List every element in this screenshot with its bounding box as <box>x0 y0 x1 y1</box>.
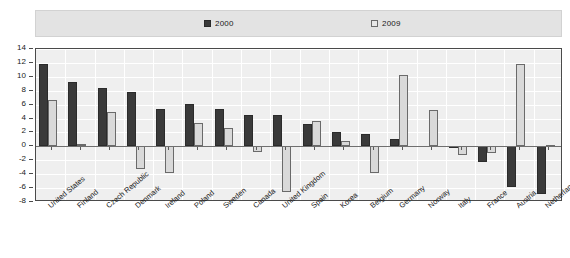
bar-group <box>95 49 124 200</box>
bar-2000 <box>244 115 253 146</box>
bar-2000 <box>127 92 136 146</box>
bar-2000 <box>39 64 48 147</box>
bar-2000 <box>273 115 282 146</box>
x-axis-labels: United StatesFinlandCzech RepublicDenmar… <box>35 201 562 258</box>
y-tick-label: 10 <box>17 72 26 80</box>
bar-group <box>300 49 329 200</box>
bar-group <box>270 49 299 200</box>
legend-label-2009: 2009 <box>382 20 401 28</box>
bar-group <box>36 49 65 200</box>
bar-2009 <box>312 121 321 146</box>
bar-2009 <box>370 146 379 173</box>
bar-2009 <box>48 100 57 146</box>
bar-group <box>241 49 270 200</box>
y-tick-mark <box>29 173 33 174</box>
y-tick-label: 4 <box>22 114 26 122</box>
legend-entry-2000: 2000 <box>204 20 234 28</box>
zero-axis-line <box>36 146 561 147</box>
bar-group <box>182 49 211 200</box>
y-tick-mark <box>29 201 33 202</box>
y-tick-mark <box>29 145 33 146</box>
y-tick-mark <box>29 90 33 91</box>
bar-group <box>387 49 416 200</box>
bar-2009 <box>136 146 145 169</box>
bar-2000 <box>303 124 312 146</box>
bar-group <box>124 49 153 200</box>
bar-2000 <box>361 134 370 147</box>
bar-2000 <box>390 139 399 146</box>
bar-2000 <box>507 146 516 186</box>
bar-group <box>329 49 358 200</box>
bar-chart: 2000 2009 14121086420-2-4-6-8 United Sta… <box>0 0 570 258</box>
y-tick-label: -4 <box>19 169 26 177</box>
bar-group <box>153 49 182 200</box>
bar-2000 <box>156 109 165 147</box>
bar-2000 <box>537 146 546 193</box>
y-tick-label: 6 <box>22 100 26 108</box>
bar-group <box>534 49 562 200</box>
bar-group <box>358 49 387 200</box>
legend-swatch-icon-2009 <box>371 20 378 27</box>
y-tick-label: -2 <box>19 155 26 163</box>
y-tick-label: 0 <box>22 141 26 149</box>
y-tick-mark <box>29 118 33 119</box>
legend-swatch-icon-2000 <box>204 20 211 27</box>
bar-2000 <box>98 88 107 146</box>
bar-2009 <box>399 75 408 146</box>
y-tick-mark <box>29 131 33 132</box>
y-tick-mark <box>29 62 33 63</box>
legend-entry-2009: 2009 <box>371 20 401 28</box>
chart-legend: 2000 2009 <box>35 10 562 37</box>
bar-2009 <box>165 146 174 172</box>
y-tick-label: -6 <box>19 183 26 191</box>
bar-2000 <box>332 132 341 147</box>
bar-2009 <box>429 110 438 146</box>
bar-group <box>446 49 475 200</box>
bar-2000 <box>185 104 194 146</box>
bars-layer <box>36 49 561 200</box>
bar-group <box>212 49 241 200</box>
y-tick-label: 14 <box>17 44 26 52</box>
bar-2000 <box>68 82 77 147</box>
y-tick-mark <box>29 187 33 188</box>
y-axis: 14121086420-2-4-6-8 <box>0 48 33 201</box>
bar-2000 <box>478 146 487 162</box>
y-tick-mark <box>29 159 33 160</box>
bar-2009 <box>224 128 233 146</box>
y-tick-mark <box>29 104 33 105</box>
bar-2000 <box>215 109 224 147</box>
bar-2009 <box>458 146 467 155</box>
bar-2009 <box>282 146 291 191</box>
y-tick-label: 2 <box>22 127 26 135</box>
y-tick-mark <box>29 76 33 77</box>
bar-2009 <box>516 64 525 146</box>
bar-group <box>417 49 446 200</box>
y-tick-label: 12 <box>17 58 26 66</box>
bar-2009 <box>487 146 496 153</box>
legend-label-2000: 2000 <box>215 20 234 28</box>
plot-area <box>35 48 562 201</box>
bar-2009 <box>107 112 116 146</box>
bar-group <box>504 49 533 200</box>
y-tick-mark <box>29 48 33 49</box>
bar-2009 <box>194 123 203 146</box>
bar-group <box>475 49 504 200</box>
y-tick-label: -8 <box>19 197 26 205</box>
bar-group <box>65 49 94 200</box>
y-tick-label: 8 <box>22 86 26 94</box>
